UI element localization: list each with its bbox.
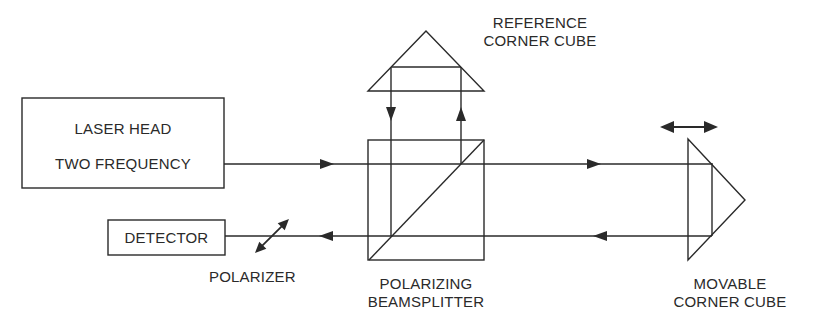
arrow-right-icon	[320, 159, 334, 169]
beamsplitter-label-line1: POLARIZING	[346, 275, 506, 292]
arrow-right-icon	[587, 159, 601, 169]
movable-corner-cube	[688, 139, 745, 260]
reference-cube-label-line1: REFERENCE	[470, 14, 610, 31]
arrow-left-icon	[593, 231, 607, 241]
detector-label: DETECTOR	[108, 229, 225, 246]
laser-head-box	[22, 98, 224, 188]
arrow-up-icon	[456, 107, 466, 121]
beamsplitter-label-line2: BEAMSPLITTER	[346, 293, 506, 310]
reference-corner-cube	[368, 31, 484, 91]
movable-cube-label-line1: MOVABLE	[660, 275, 800, 292]
two-frequency-label: TWO FREQUENCY	[22, 155, 224, 172]
beamsplitter-diagonal	[369, 140, 484, 260]
reference-cube-label-line2: CORNER CUBE	[470, 32, 610, 49]
polarizer-label: POLARIZER	[209, 268, 296, 285]
arrow-down-icon	[386, 107, 396, 121]
motion-double-arrow-icon	[660, 121, 718, 133]
arrow-left-icon	[319, 231, 333, 241]
movable-cube-label-line2: CORNER CUBE	[660, 293, 800, 310]
laser-head-label: LASER HEAD	[22, 120, 224, 137]
